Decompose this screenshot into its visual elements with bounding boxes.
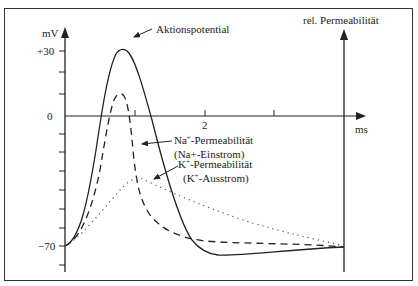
label-k-line1: K+-Permeabilität	[178, 158, 252, 170]
y-axis-left: mV +30 0 −70	[37, 27, 69, 272]
label-na-line1: Na+-Permeabilität	[174, 134, 253, 146]
series-k-permeability	[65, 178, 344, 246]
x-tick-label-2: 2	[202, 119, 208, 131]
y-axis-arrow-icon	[61, 27, 69, 38]
series-na-permeability	[65, 94, 344, 247]
y-tick-label-minus70: −70	[38, 240, 56, 252]
right-axis-label: rel. Permeabilität	[303, 14, 379, 26]
annotation-action-potential: Aktionspotential	[134, 23, 229, 37]
label-k-line2: (K+-Ausstrom)	[183, 172, 249, 185]
y-tick-label-plus30: +30	[37, 45, 55, 57]
y-axis-right: rel. Permeabilität	[303, 14, 379, 272]
label-action-potential: Aktionspotential	[156, 23, 229, 35]
x-axis-unit-label: ms	[355, 123, 368, 135]
action-potential-chart: mV +30 0 −70 2 ms rel. Permeabilität Akt…	[0, 0, 418, 286]
y-axis-unit-label: mV	[42, 27, 59, 39]
x-axis-arrow-icon	[356, 112, 366, 120]
y-tick-label-zero: 0	[47, 110, 53, 122]
right-axis-arrow-icon	[340, 29, 348, 40]
x-axis: 2 ms	[65, 110, 368, 135]
